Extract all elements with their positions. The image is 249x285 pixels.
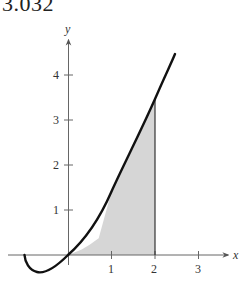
y-tick-label-2: 2 bbox=[53, 158, 59, 172]
y-tick-label-3: 3 bbox=[53, 113, 59, 127]
x-tick-label-3: 3 bbox=[195, 262, 201, 276]
function-plot: 1 2 3 1 2 3 4 x y bbox=[0, 0, 249, 285]
x-tick-label-2: 2 bbox=[151, 262, 157, 276]
y-axis-label: y bbox=[64, 22, 71, 36]
y-tick-label-1: 1 bbox=[53, 203, 59, 217]
x-axis-label: x bbox=[232, 248, 239, 262]
y-tick-label-4: 4 bbox=[53, 68, 59, 82]
x-tick-label-1: 1 bbox=[108, 262, 114, 276]
shaded-area bbox=[68, 99, 155, 255]
